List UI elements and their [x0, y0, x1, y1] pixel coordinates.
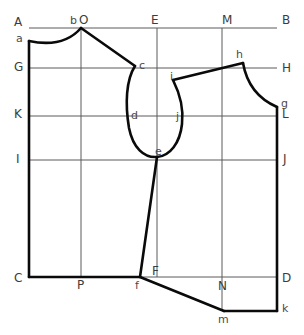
pattern-drawing — [0, 0, 304, 335]
back-hem-diagonal — [140, 277, 224, 311]
point-label-A: A — [14, 16, 22, 28]
point-label-K: K — [14, 108, 22, 120]
point-label-E: E — [151, 14, 159, 26]
point-label-O: O — [79, 14, 88, 26]
point-label-j: j — [176, 111, 179, 122]
back-shoulder-seam — [173, 63, 243, 80]
point-label-M: M — [222, 14, 232, 26]
point-label-i: i — [170, 71, 173, 82]
front-shoulder-seam — [81, 28, 135, 66]
point-label-c: c — [139, 60, 145, 71]
point-label-G: G — [14, 61, 23, 73]
point-label-L: L — [282, 108, 289, 120]
point-label-d: d — [131, 110, 138, 121]
point-label-b: b — [70, 15, 77, 26]
point-label-P: P — [77, 279, 84, 291]
point-label-F: F — [152, 265, 159, 277]
point-label-m: m — [218, 314, 229, 325]
point-label-k: k — [282, 303, 288, 314]
point-label-h: h — [236, 49, 243, 60]
back-neckline-curve — [243, 63, 277, 107]
front-side-seam — [140, 157, 157, 277]
point-label-H: H — [282, 62, 291, 74]
point-label-a: a — [16, 33, 23, 44]
point-label-J: J — [283, 153, 287, 165]
point-label-N: N — [218, 280, 227, 292]
point-label-D: D — [282, 272, 291, 284]
point-label-f: f — [135, 280, 139, 291]
point-label-B: B — [282, 14, 290, 26]
point-label-I: I — [16, 153, 20, 165]
point-label-e: e — [155, 146, 162, 157]
front-neckline-curve — [29, 28, 81, 43]
pattern-diagram-canvas: A b O E M B a G c h H i K d j g L I e J … — [0, 0, 304, 335]
point-label-C: C — [14, 272, 22, 284]
